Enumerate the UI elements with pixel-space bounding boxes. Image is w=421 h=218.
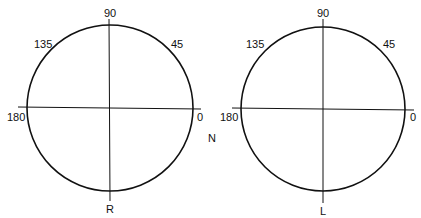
label-90-l: 90 — [317, 7, 329, 19]
label-bottom-l: L — [320, 205, 326, 217]
panel-l: 90 45 135 180 0 L — [220, 7, 416, 217]
label-135-l: 135 — [246, 38, 264, 50]
label-n: N — [208, 132, 216, 144]
label-180-r: 180 — [7, 111, 25, 123]
label-45-l: 45 — [383, 38, 395, 50]
label-0-r: 0 — [197, 111, 203, 123]
label-90-r: 90 — [104, 7, 116, 19]
label-45-r: 45 — [171, 38, 183, 50]
label-0-l: 0 — [410, 111, 416, 123]
vertical-axis-r — [109, 19, 110, 201]
label-180-l: 180 — [220, 111, 238, 123]
label-bottom-r: R — [106, 203, 114, 215]
polarization-diagram: 90 45 135 180 0 R N 90 45 135 180 0 L — [0, 0, 421, 218]
panel-r: 90 45 135 180 0 R — [7, 7, 203, 215]
label-135-r: 135 — [34, 38, 52, 50]
